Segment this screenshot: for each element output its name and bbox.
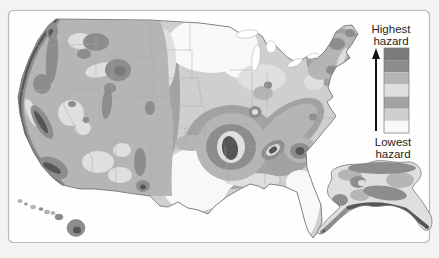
figure-frame: Highest hazard Lowest hazard bbox=[0, 0, 439, 258]
legend-band bbox=[384, 48, 409, 60]
legend-band bbox=[384, 84, 409, 96]
legend-band bbox=[384, 72, 409, 84]
hazard-core bbox=[140, 185, 146, 190]
hazard-blob bbox=[309, 114, 317, 121]
hawaii-island bbox=[39, 208, 43, 211]
legend-band bbox=[384, 109, 409, 121]
hazard-core bbox=[73, 227, 81, 234]
hazard-blob bbox=[264, 82, 272, 89]
hazard-blob bbox=[104, 83, 116, 93]
hawaii-island-maui bbox=[55, 214, 63, 220]
seismic-hazard-map: Highest hazard Lowest hazard bbox=[0, 0, 439, 258]
hazard-blob bbox=[77, 49, 91, 59]
legend-lowest-label-line2: hazard bbox=[375, 148, 410, 160]
region-charleston-core bbox=[296, 147, 305, 155]
hawaii-island bbox=[31, 205, 36, 209]
hazard-core bbox=[114, 66, 126, 76]
legend-lowest-label-line1: Lowest bbox=[375, 136, 412, 148]
lake-huron bbox=[266, 41, 276, 53]
hawaii-island bbox=[18, 199, 22, 202]
hazard-blob bbox=[253, 86, 273, 100]
hazard-blob bbox=[75, 121, 91, 135]
legend-band bbox=[384, 97, 409, 109]
hazard-blob bbox=[33, 74, 51, 94]
region-wabash-inner bbox=[252, 109, 258, 115]
hazard-blob bbox=[82, 151, 114, 173]
hazard-blob bbox=[68, 101, 76, 107]
legend-band bbox=[384, 121, 409, 133]
hazard-blob bbox=[108, 167, 132, 183]
hazard-blob bbox=[345, 29, 355, 37]
hazard-blob bbox=[118, 21, 162, 39]
hazard-blob bbox=[145, 101, 155, 115]
hazard-blob bbox=[358, 180, 366, 186]
legend-highest-label-line2: hazard bbox=[373, 35, 408, 47]
hazard-blob bbox=[83, 117, 89, 123]
hawaii-island bbox=[44, 210, 49, 214]
region-rio-grande-rift bbox=[134, 148, 146, 176]
legend-band bbox=[384, 60, 409, 72]
hazard-blob bbox=[386, 172, 414, 188]
legend-highest-label-line1: Highest bbox=[372, 23, 412, 35]
hawaii-island bbox=[51, 211, 55, 214]
hawaii-island bbox=[24, 203, 27, 206]
